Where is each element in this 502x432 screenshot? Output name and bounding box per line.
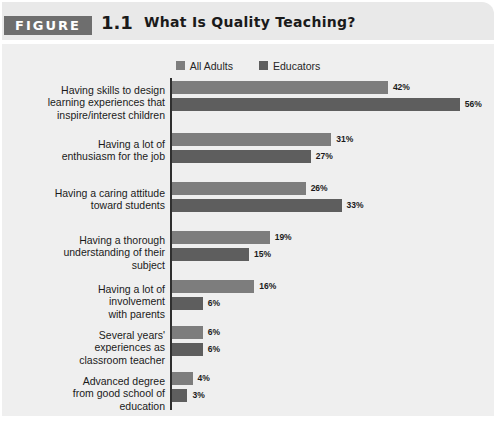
legend-label: Educators xyxy=(273,60,320,72)
category-label-line: from good school of xyxy=(10,387,165,399)
category-label-line: Advanced degree xyxy=(10,375,165,387)
category-label-line: Having skills to design xyxy=(10,84,165,96)
figure-number: 1.1 xyxy=(101,12,133,33)
bar-value-label: 6% xyxy=(208,298,220,308)
category-label-line: toward students xyxy=(10,199,165,211)
figure-container: FIGURE 1.1 What Is Quality Teaching? All… xyxy=(0,0,502,432)
category-label-line: Having a lot of xyxy=(10,283,165,295)
legend-item-2: Educators xyxy=(259,56,320,74)
category-label-line: understanding of their xyxy=(10,246,165,258)
bar-educators xyxy=(172,248,249,261)
value-axis-line xyxy=(170,78,172,410)
category-label-line: education xyxy=(10,400,165,412)
bar-all-adults xyxy=(172,133,331,146)
bar-value-label: 19% xyxy=(275,232,292,242)
bar-value-label: 3% xyxy=(192,390,204,400)
category-label-line: inspire/interest children xyxy=(10,109,165,121)
bar-educators xyxy=(172,98,460,111)
legend-swatch-icon xyxy=(259,61,268,70)
plot-area: Having skills to designlearning experien… xyxy=(2,76,494,416)
category-label-line: enthusiasm for the job xyxy=(10,150,165,162)
category-label-line: Having a caring attitude xyxy=(10,187,165,199)
clipped-caption-strip xyxy=(0,424,502,432)
category-label-line: Several years' xyxy=(10,329,165,341)
bar-value-label: 15% xyxy=(254,249,271,259)
category-label: Having a caring attitudetoward students xyxy=(10,187,165,212)
bar-value-label: 56% xyxy=(465,99,482,109)
legend-label: All Adults xyxy=(190,60,233,72)
category-label: Having a thoroughunderstanding of theirs… xyxy=(10,234,165,271)
bar-educators xyxy=(172,343,203,356)
category-label-line: learning experiences that xyxy=(10,96,165,108)
bar-all-adults xyxy=(172,372,193,385)
figure-tag-label: FIGURE xyxy=(4,16,92,35)
bar-all-adults xyxy=(172,231,270,244)
category-label: Having a lot ofenthusiasm for the job xyxy=(10,138,165,163)
category-label-line: experiences as xyxy=(10,341,165,353)
category-label: Advanced degreefrom good school ofeducat… xyxy=(10,375,165,412)
category-label-line: classroom teacher xyxy=(10,354,165,366)
chart-panel: All AdultsEducators Having skills to des… xyxy=(2,44,494,416)
figure-header-band: FIGURE 1.1 What Is Quality Teaching? xyxy=(2,2,494,40)
category-label: Having a lot ofinvolvementwith parents xyxy=(10,283,165,320)
bar-educators xyxy=(172,297,203,310)
bar-value-label: 6% xyxy=(208,344,220,354)
bar-value-label: 16% xyxy=(259,281,276,291)
bar-value-label: 31% xyxy=(336,134,353,144)
category-label-line: Having a thorough xyxy=(10,234,165,246)
bar-value-label: 4% xyxy=(198,373,210,383)
legend-swatch-icon xyxy=(176,61,185,70)
bar-all-adults xyxy=(172,280,254,293)
category-label: Having skills to designlearning experien… xyxy=(10,84,165,121)
bar-value-label: 27% xyxy=(316,151,333,161)
legend-item-1: All Adults xyxy=(176,56,233,74)
bar-educators xyxy=(172,389,187,402)
figure-title: What Is Quality Teaching? xyxy=(144,14,356,30)
bar-value-label: 6% xyxy=(208,327,220,337)
category-label-line: Having a lot of xyxy=(10,138,165,150)
bar-educators xyxy=(172,199,342,212)
bar-value-label: 26% xyxy=(311,183,328,193)
category-label-line: subject xyxy=(10,259,165,271)
bar-educators xyxy=(172,150,311,163)
chart-legend: All AdultsEducators xyxy=(2,55,494,74)
bar-all-adults xyxy=(172,81,388,94)
bar-all-adults xyxy=(172,326,203,339)
category-label-line: with parents xyxy=(10,308,165,320)
bar-value-label: 33% xyxy=(347,200,364,210)
bar-value-label: 42% xyxy=(393,82,410,92)
bar-all-adults xyxy=(172,182,306,195)
category-label: Several years'experiences asclassroom te… xyxy=(10,329,165,366)
category-label-line: involvement xyxy=(10,295,165,307)
